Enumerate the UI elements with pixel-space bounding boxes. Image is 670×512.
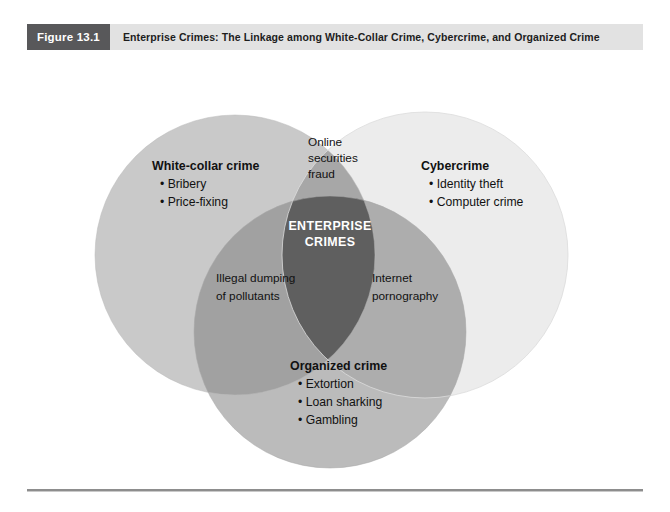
- label-internet-pornography-line-2: pornography: [372, 289, 438, 303]
- label-organized-item-3: • Gambling: [298, 413, 358, 427]
- label-online-fraud-line-2: securities: [308, 151, 358, 165]
- figure-title: Enterprise Crimes: The Linkage among Whi…: [110, 24, 600, 50]
- figure-caption-bar: Figure 13.1 Enterprise Crimes: The Linka…: [27, 24, 643, 50]
- label-white-collar-item-1: • Bribery: [160, 177, 207, 191]
- venn-diagram: White-collar crime • Bribery • Price-fix…: [0, 60, 670, 480]
- label-enterprise-crimes-line-2: CRIMES: [305, 235, 356, 249]
- label-cybercrime-heading: Cybercrime: [421, 159, 489, 173]
- label-enterprise-crimes-line-1: ENTERPRISE: [288, 219, 371, 233]
- label-white-collar-item-2: • Price-fixing: [160, 195, 228, 209]
- label-white-collar-heading: White-collar crime: [152, 159, 260, 173]
- label-online-fraud-line-1: Online: [308, 135, 343, 149]
- label-organized-item-1: • Extortion: [298, 377, 354, 391]
- label-online-fraud-line-3: fraud: [308, 167, 335, 181]
- label-illegal-dumping-line-1: Illegal dumping: [216, 271, 295, 285]
- figure-number-label: Figure 13.1: [27, 24, 110, 50]
- footer-divider: [27, 489, 643, 492]
- label-cybercrime-item-2: • Computer crime: [429, 195, 524, 209]
- label-illegal-dumping-line-2: of pollutants: [216, 289, 280, 303]
- label-cybercrime-item-1: • Identity theft: [429, 177, 504, 191]
- label-organized-heading: Organized crime: [290, 359, 387, 373]
- label-internet-pornography-line-1: Internet: [372, 271, 413, 285]
- label-organized-item-2: • Loan sharking: [298, 395, 382, 409]
- venn-diagram-canvas: White-collar crime • Bribery • Price-fix…: [0, 60, 670, 480]
